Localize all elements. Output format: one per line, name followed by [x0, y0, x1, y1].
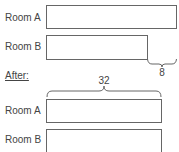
room-b-label-after: Room B	[5, 134, 41, 146]
room-a-label-after: Room A	[5, 105, 41, 117]
brace-label-32: 32	[94, 75, 114, 87]
room-b-bar-after	[46, 129, 162, 152]
room-a-bar-after	[46, 99, 162, 123]
difference-label: 8	[156, 67, 168, 79]
after-heading: After:	[5, 70, 29, 82]
